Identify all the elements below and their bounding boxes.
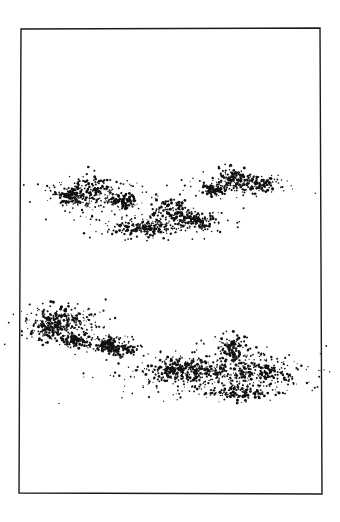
paper-background	[0, 0, 340, 522]
stipple-cloud-illustration	[0, 0, 340, 522]
